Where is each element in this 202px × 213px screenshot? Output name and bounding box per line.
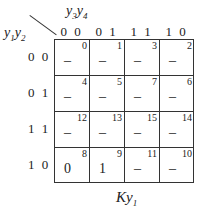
cell-index: 13	[112, 113, 122, 123]
row-header: 0 1	[28, 85, 50, 101]
column-header: 0 1	[89, 24, 124, 40]
cell-value: 1	[99, 162, 106, 176]
corner-diagonal-line	[29, 15, 56, 35]
cell-index: 6	[187, 77, 192, 87]
cell-value: –	[134, 126, 141, 140]
cell-index: 1	[117, 41, 122, 51]
cell-index: 12	[77, 113, 87, 123]
cell-index: 11	[147, 149, 157, 159]
cell-value: –	[99, 90, 106, 104]
kmap-cell: 2–	[160, 40, 195, 76]
kmap-cell: 5–	[90, 76, 125, 112]
cell-value: –	[99, 54, 106, 68]
cell-index: 14	[182, 113, 192, 123]
col-var-b-sub: 4	[83, 11, 88, 21]
row-var-b-sub: 2	[21, 33, 26, 43]
map-title-main: Ky	[116, 189, 133, 205]
cell-value: –	[99, 126, 106, 140]
row-header: 1 1	[28, 121, 50, 137]
cell-value: –	[64, 90, 71, 104]
kmap-cell: 91	[90, 148, 125, 184]
map-title: Ky1	[116, 189, 137, 208]
cell-value: –	[169, 54, 176, 68]
row-variables-label: y1y2	[4, 25, 25, 43]
cell-index: 8	[82, 149, 87, 159]
kmap-cell: 80	[55, 148, 90, 184]
karnaugh-map-grid: 0– 1– 3– 2– 4– 5– 7– 6– 12– 13– 15– 14– …	[54, 39, 194, 183]
cell-value: –	[134, 90, 141, 104]
cell-value: –	[169, 90, 176, 104]
kmap-cell: 6–	[160, 76, 195, 112]
cell-index: 10	[182, 149, 192, 159]
column-header: 1 1	[124, 24, 159, 40]
cell-index: 3	[152, 41, 157, 51]
kmap-cell: 11–	[125, 148, 160, 184]
row-header: 1 0	[28, 157, 50, 173]
cell-value: –	[134, 54, 141, 68]
cell-value: –	[134, 162, 141, 176]
cell-index: 0	[82, 41, 87, 51]
cell-index: 5	[117, 77, 122, 87]
cell-value: –	[64, 54, 71, 68]
cell-index: 7	[152, 77, 157, 87]
kmap-cell: 1–	[90, 40, 125, 76]
kmap-cell: 7–	[125, 76, 160, 112]
kmap-cell: 12–	[55, 112, 90, 148]
cell-index: 4	[82, 77, 87, 87]
cell-index: 15	[147, 113, 157, 123]
map-title-sub: 1	[133, 198, 138, 208]
kmap-cell: 0–	[55, 40, 90, 76]
kmap-cell: 14–	[160, 112, 195, 148]
cell-value: 0	[64, 162, 71, 176]
column-header: 1 0	[159, 24, 194, 40]
cell-index: 2	[187, 41, 192, 51]
column-header: 0 0	[54, 24, 89, 40]
cell-index: 9	[117, 149, 122, 159]
cell-value: –	[64, 126, 71, 140]
kmap-cell: 13–	[90, 112, 125, 148]
cell-value: –	[169, 126, 176, 140]
kmap-cell: 4–	[55, 76, 90, 112]
kmap-cell: 15–	[125, 112, 160, 148]
row-header: 0 0	[28, 49, 50, 65]
kmap-cell: 3–	[125, 40, 160, 76]
cell-value: –	[169, 162, 176, 176]
kmap-cell: 10–	[160, 148, 195, 184]
column-variables-label: y3y4	[66, 3, 87, 21]
